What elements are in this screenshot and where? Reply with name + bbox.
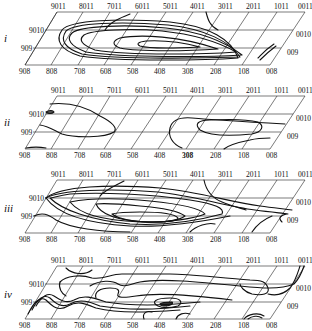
svg-text:108: 108 [238,235,250,244]
svg-text:5011: 5011 [163,86,178,95]
svg-text:8011: 8011 [79,86,94,95]
svg-text:9011: 9011 [51,170,66,179]
panel-label: iii [4,202,13,214]
svg-text:508: 508 [127,321,139,330]
svg-text:4011: 4011 [190,86,205,95]
bottom-axis-labels: 908 808 708 608 508 408 308 208 108 008 [19,67,278,76]
svg-text:608: 608 [100,67,112,76]
svg-text:6011: 6011 [135,170,150,179]
bottom-axis-labels: 908 808 708 608 508 408 308 208 108 008 [19,321,278,330]
svg-text:008: 008 [266,235,278,244]
svg-text:2011: 2011 [246,2,261,11]
svg-text:909: 909 [21,44,33,53]
panel-ii: ii 9011 8011 7011 6011 5011 4011 3011 20… [4,86,312,160]
svg-text:208: 208 [210,321,222,330]
svg-text:0010: 0010 [296,114,311,123]
svg-text:108: 108 [238,321,250,330]
svg-text:6011: 6011 [135,2,150,11]
svg-text:708: 708 [74,67,86,76]
svg-text:9010: 9010 [29,194,44,203]
svg-text:2011: 2011 [246,256,261,265]
svg-text:6011: 6011 [135,256,150,265]
svg-text:1011: 1011 [274,256,289,265]
svg-text:0010: 0010 [296,30,311,39]
panel-iv: iv 9011 8011 7011 6011 5011 4011 3011 20… [4,256,312,330]
svg-text:009: 009 [287,48,299,57]
svg-text:3011: 3011 [218,256,233,265]
svg-text:808: 808 [46,67,58,76]
svg-text:9010: 9010 [29,110,44,119]
svg-text:9011: 9011 [51,2,66,11]
svg-text:0010: 0010 [296,198,311,207]
svg-text:008: 008 [266,321,278,330]
svg-text:009: 009 [287,302,299,311]
svg-text:909: 909 [21,212,33,221]
svg-text:0010: 0010 [296,284,311,293]
svg-text:3011: 3011 [218,86,233,95]
svg-text:5011: 5011 [163,170,178,179]
svg-text:4011: 4011 [190,256,205,265]
bottom-axis-labels: 908 808 708 608 508 408 308 208 108 008 [19,235,278,244]
svg-text:9011: 9011 [51,86,66,95]
contour-figure: i 9011 8011 7011 6011 5011 4011 3011 201… [0,0,312,331]
svg-text:008: 008 [266,67,278,76]
svg-text:508: 508 [127,67,139,76]
top-axis-labels: 9011 8011 7011 6011 5011 4011 3011 2011 … [51,256,312,265]
svg-text:8011: 8011 [79,2,94,11]
svg-text:009: 009 [287,216,299,225]
svg-text:508: 508 [127,151,139,160]
svg-text:3011: 3011 [218,170,233,179]
panel-label: ii [4,116,10,128]
svg-text:0011: 0011 [298,86,312,95]
svg-text:108: 108 [238,67,250,76]
svg-text:408: 408 [154,151,166,160]
svg-text:3011: 3011 [218,2,233,11]
contours [34,180,292,232]
svg-text:9010: 9010 [29,26,44,35]
svg-text:8011: 8011 [79,170,94,179]
svg-text:7011: 7011 [107,170,122,179]
panel-i: i 9011 8011 7011 6011 5011 4011 3011 201… [4,2,312,76]
svg-text:108: 108 [238,151,250,160]
contours [28,266,304,319]
svg-text:208: 208 [210,67,222,76]
svg-text:7011: 7011 [107,2,122,11]
top-axis-labels: 9011 8011 7011 6011 5011 4011 3011 2011 … [51,2,312,11]
svg-text:0011: 0011 [298,2,312,11]
panel-label: iv [4,288,12,300]
svg-text:308: 308 [182,67,194,76]
svg-text:2011: 2011 [246,170,261,179]
svg-text:9011: 9011 [51,256,66,265]
svg-text:0011: 0011 [298,170,312,179]
svg-text:009: 009 [287,132,299,141]
svg-text:708: 708 [74,321,86,330]
svg-text:5011: 5011 [163,2,178,11]
svg-text:908: 908 [19,235,31,244]
svg-text:608: 608 [100,235,112,244]
bottom-axis-labels: 908 808 708 608 508 408 308 208 108 008 [19,151,278,160]
svg-text:408: 408 [154,67,166,76]
svg-text:708: 708 [74,235,86,244]
svg-text:908: 908 [19,67,31,76]
svg-text:1011: 1011 [274,86,289,95]
top-axis-labels: 9011 8011 7011 6011 5011 4011 3011 2011 … [51,170,312,179]
svg-text:008: 008 [266,151,278,160]
svg-text:908: 908 [19,151,31,160]
svg-text:608: 608 [100,321,112,330]
svg-text:5011: 5011 [163,256,178,265]
svg-text:2011: 2011 [246,86,261,95]
svg-text:408: 408 [154,321,166,330]
svg-text:908: 908 [19,321,31,330]
svg-text:7011: 7011 [107,256,122,265]
svg-text:6011: 6011 [135,86,150,95]
svg-text:909: 909 [21,128,33,137]
svg-text:9010: 9010 [29,280,44,289]
svg-text:1011: 1011 [274,170,289,179]
svg-text:608: 608 [100,151,112,160]
svg-text:708: 708 [74,151,86,160]
svg-text:808: 808 [46,235,58,244]
panel-iii: iii 9011 8011 7011 6011 5011 4011 3011 2… [4,170,312,244]
svg-text:808: 808 [46,321,58,330]
svg-text:408: 408 [154,235,166,244]
svg-text:8011: 8011 [79,256,94,265]
